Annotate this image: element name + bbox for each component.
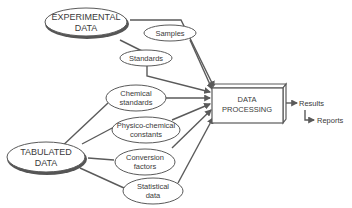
source-experimental-data: EXPERIMENTAL DATA <box>45 8 129 39</box>
input-statistical-data-line2: data <box>146 191 161 200</box>
input-statistical-data-line1: Statistical <box>137 182 169 191</box>
output-results: Results <box>299 99 324 108</box>
connector-statistical-to-processing <box>178 118 213 183</box>
input-physico-chemical-line1: Physico-chemical <box>117 121 176 130</box>
source-tabulated-data: TABULATED DATA <box>7 142 87 175</box>
input-conversion-factors-line2: factors <box>134 162 157 171</box>
input-chemical-standards-line1: Chemical <box>120 89 152 98</box>
input-physico-chemical-line2: constants <box>130 130 162 139</box>
connector-tabulated-to-conversion <box>88 158 114 160</box>
input-standards-label: Standards <box>129 54 163 63</box>
data-processing-diagram: EXPERIMENTAL DATA TABULATED DATA Samples… <box>0 0 352 208</box>
connector-tabulated-to-physico <box>82 126 116 144</box>
input-chemical-standards-line2: standards <box>120 98 153 107</box>
source-tabulated-line1: TABULATED <box>20 147 72 157</box>
inputs <box>106 25 196 204</box>
connector-tabulated-to-statistical <box>80 168 124 188</box>
connector-physico-chemical-to-processing <box>172 104 210 120</box>
connector-results-to-reports <box>305 110 314 120</box>
source-experimental-line2: DATA <box>75 23 98 33</box>
processing-line1: DATA <box>238 95 257 104</box>
output-reports: Reports <box>317 116 344 125</box>
input-samples-label: Samples <box>155 29 184 38</box>
source-tabulated-line2: DATA <box>35 158 58 168</box>
processing-line2: PROCESSING <box>222 105 272 114</box>
input-conversion-factors-line1: Conversion <box>126 153 164 162</box>
connector-samples-to-processing <box>190 40 212 89</box>
source-experimental-line1: EXPERIMENTAL <box>52 12 121 22</box>
